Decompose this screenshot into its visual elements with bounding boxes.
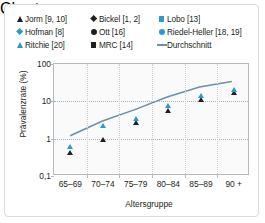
- x-tick-label: 70–74: [91, 179, 114, 189]
- trend-line: [70, 81, 232, 135]
- legend-item-ott: Ott [16]: [88, 26, 156, 38]
- legend-label: Bickel [1, 2]: [99, 15, 140, 24]
- chart-legend: Jorm [9, 10] Hofman [8] Ritchie [20] Bic…: [14, 13, 253, 51]
- x-tick-mark: [87, 174, 88, 178]
- x-tick-label: 90 +: [225, 179, 242, 189]
- figure-frame: Jorm [9, 10] Hofman [8] Ritchie [20] Bic…: [4, 4, 259, 217]
- y-tick-mark: [51, 139, 54, 140]
- legend-label: Lobo [13]: [167, 15, 200, 24]
- data-point: [165, 86, 171, 104]
- y-tick-mark: [51, 64, 54, 65]
- plot-area: 0,111010065–6970–7475–7980–8485–8990 +: [53, 63, 249, 175]
- data-point: [133, 99, 139, 117]
- triangle-marker-icon: [67, 127, 73, 149]
- legend-item-jorm: Jorm [9, 10]: [14, 13, 88, 25]
- legend-item-bickel: Bickel [1, 2]: [88, 13, 156, 25]
- y-tick-mark: [51, 176, 54, 177]
- x-tick-mark: [185, 174, 186, 178]
- data-point: [100, 106, 106, 124]
- gridline-vertical: [119, 64, 120, 174]
- triangle-marker-icon: [14, 14, 25, 25]
- diamond-marker-icon: [88, 14, 99, 25]
- circle-marker-icon: [88, 27, 99, 38]
- triangle-marker-icon: [231, 70, 237, 92]
- x-tick-mark: [152, 174, 153, 178]
- y-tick-label: 0,1: [39, 171, 51, 181]
- square-marker-icon: [88, 40, 99, 51]
- gridline-vertical: [185, 64, 186, 174]
- legend-item-durchschnitt: Durchschnitt: [156, 39, 253, 51]
- x-tick-label: 75–79: [124, 179, 147, 189]
- gridline-vertical: [217, 64, 218, 174]
- gridline-horizontal: [54, 139, 248, 140]
- square-marker-icon: [156, 14, 167, 25]
- y-tick-mark: [51, 101, 54, 102]
- x-tick-label: 85–89: [189, 179, 212, 189]
- y-tick-label: 100: [37, 59, 51, 69]
- legend-label: Ritchie [20]: [25, 41, 65, 50]
- legend-column-1: Jorm [9, 10] Hofman [8] Ritchie [20]: [14, 13, 88, 51]
- x-axis-label: Altersgruppe: [49, 199, 249, 209]
- gridline-vertical: [152, 64, 153, 174]
- legend-item-riedel-heller: Riedel-Heller [18, 19]: [156, 26, 253, 38]
- data-point: [198, 76, 204, 94]
- x-tick-label: 65–69: [59, 179, 82, 189]
- triangle-marker-icon: [165, 86, 171, 108]
- y-tick-label: 10: [42, 96, 51, 106]
- data-point: [231, 70, 237, 88]
- y-tick-label: 1: [46, 134, 51, 144]
- y-axis-label: Prävalenzrate (%): [18, 58, 28, 150]
- x-tick-mark: [217, 174, 218, 178]
- legend-label: Jorm [9, 10]: [25, 15, 67, 24]
- legend-item-lobo: Lobo [13]: [156, 13, 253, 25]
- triangle-marker-icon: [14, 40, 25, 51]
- legend-column-2: Bickel [1, 2] Ott [16] MRC [14]: [88, 13, 156, 51]
- legend-item-hofman: Hofman [8]: [14, 26, 88, 38]
- x-tick-label: 80–84: [157, 179, 180, 189]
- x-tick-mark: [119, 174, 120, 178]
- legend-column-3: Lobo [13] Riedel-Heller [18, 19] Durchsc…: [156, 13, 253, 51]
- gridline-horizontal: [54, 101, 248, 102]
- legend-item-mrc: MRC [14]: [88, 39, 156, 51]
- legend-label: Ott [16]: [99, 28, 125, 37]
- triangle-marker-icon: [133, 99, 139, 121]
- gridline-vertical: [87, 64, 88, 174]
- triangle-marker-icon: [198, 76, 204, 98]
- line-marker-icon: [156, 40, 167, 51]
- circle-marker-icon: [156, 27, 167, 38]
- legend-label: Riedel-Heller [18, 19]: [167, 28, 242, 37]
- legend-label: Hofman [8]: [25, 28, 64, 37]
- legend-item-ritchie: Ritchie [20]: [14, 39, 88, 51]
- triangle-marker-icon: [100, 106, 106, 128]
- data-point: [67, 127, 73, 145]
- trend-line-svg: [54, 64, 248, 174]
- legend-label: Durchschnitt: [167, 41, 211, 50]
- plot-wrapper: Prävalenzrate (%) 0,111010065–6970–7475–…: [5, 51, 260, 217]
- legend-label: MRC [14]: [99, 41, 133, 50]
- diamond-marker-icon: [14, 27, 25, 38]
